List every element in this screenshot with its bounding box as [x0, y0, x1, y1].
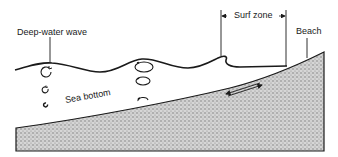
orbit-circle-icon [42, 86, 48, 93]
orbit-ellipse-icon [138, 97, 148, 101]
orbit-circle-icon [41, 66, 52, 77]
surf-zone-label: Surf zone [233, 11, 274, 20]
orbitals-deep [41, 66, 52, 107]
orbit-circle-icon [44, 103, 48, 107]
beach-label: Beach [296, 27, 322, 36]
orbit-ellipse-icon [135, 62, 153, 72]
deep-water-wave-label: Deep-water wave [17, 28, 87, 37]
orbitals-shallow [135, 62, 153, 101]
orbit-ellipse-icon [136, 77, 150, 85]
wave-diagram [0, 0, 338, 157]
